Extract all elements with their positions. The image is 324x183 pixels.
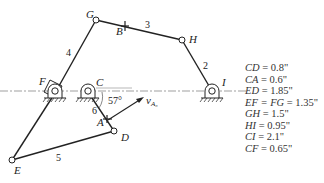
dimension-row: GH = 1.5" [245, 108, 318, 120]
label-b: B [116, 25, 123, 37]
dimension-row: EF = FG = 1.35" [245, 97, 318, 109]
dimension-row: CI = 2.1" [245, 131, 318, 143]
label-i: I [221, 76, 227, 88]
label-f: F [38, 75, 46, 87]
label-link-3: 3 [145, 19, 150, 30]
label-angle: 57° [108, 95, 122, 106]
ground-support-i [200, 84, 223, 102]
dimension-row: ED = 1.85" [245, 85, 318, 97]
label-link-5: 5 [56, 152, 61, 163]
label-g: G [86, 8, 94, 20]
joint-d [111, 128, 117, 134]
joint-h [179, 37, 185, 43]
dimension-row: CD = 0.8" [245, 62, 318, 74]
dimension-row: CA = 0.6" [245, 74, 318, 86]
label-a: A [96, 116, 104, 128]
label-link-4: 4 [66, 47, 71, 58]
label-c: C [96, 76, 104, 88]
angle-arc [99, 92, 103, 108]
label-d: D [120, 131, 129, 143]
link-4 [55, 20, 96, 93]
label-velocity: vA₆ [146, 94, 158, 108]
label-h: H [188, 33, 198, 45]
label-link-6: 6 [92, 105, 97, 116]
link-3 [96, 20, 182, 40]
label-e: E [13, 164, 21, 176]
dimension-row: HI = 0.95" [245, 120, 318, 132]
dimensions-list: CD = 0.8" CA = 0.6" ED = 1.85" EF = FG =… [245, 62, 318, 154]
joint-e [9, 157, 15, 163]
dimension-row: CF = 0.65" [245, 143, 318, 155]
label-link-2: 2 [203, 60, 208, 71]
